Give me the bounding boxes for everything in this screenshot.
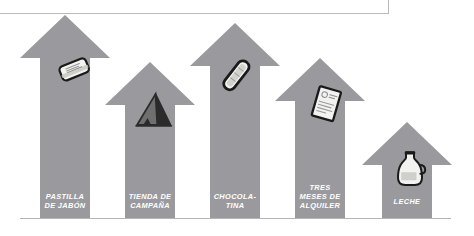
arrow-soap	[20, 15, 110, 219]
document-icon	[302, 82, 350, 128]
soap-bar-icon	[50, 47, 98, 91]
chocolate-bar-icon	[212, 52, 260, 98]
arrows-layer	[20, 15, 452, 219]
milk-jug-icon	[390, 143, 430, 195]
chart-baseline	[20, 218, 451, 219]
infographic-canvas: PASTILLA DE JABÓNTIENDA DE CAMPAÑACHOCOL…	[0, 0, 474, 236]
arrow-chart	[0, 0, 474, 236]
tent-icon	[128, 88, 176, 132]
arrow-tent	[105, 62, 195, 219]
